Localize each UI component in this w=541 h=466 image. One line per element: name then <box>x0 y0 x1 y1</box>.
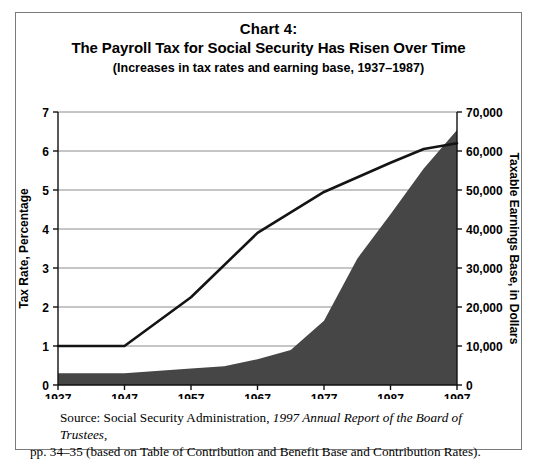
chart-title-number: Chart 4: <box>16 19 521 38</box>
tick-label-left: 0 <box>42 379 49 393</box>
tick-label-x: 1937 <box>45 392 72 399</box>
tick-label-left: 3 <box>42 262 49 276</box>
tick-label-right: 0 <box>466 379 473 393</box>
tick-label-x: 1947 <box>111 392 138 399</box>
chart-subtitle: (Increases in tax rates and earning base… <box>16 58 521 78</box>
chart-titles: Chart 4: The Payroll Tax for Social Secu… <box>16 13 521 78</box>
axis-title-y-left: Tax Rate, Percentage <box>17 188 31 309</box>
tick-label-x: 1987 <box>377 392 404 399</box>
tick-label-right: 70,000 <box>466 106 503 120</box>
tick-label-left: 7 <box>42 106 49 120</box>
source-note: Source: Social Security Administration, … <box>16 409 521 460</box>
tick-label-x: 1957 <box>178 392 205 399</box>
tick-label-left: 4 <box>42 223 49 237</box>
tick-label-left: 6 <box>42 145 49 159</box>
chart-title-main: The Payroll Tax for Social Security Has … <box>16 38 521 58</box>
tick-label-x: 1967 <box>244 392 271 399</box>
source-prefix: Source: Social Security Administration, <box>60 410 273 425</box>
source-line-2: pp. 34–35 (based on Table of Contributio… <box>30 443 507 460</box>
chart-svg: 01234567010,00020,00030,00040,00050,0006… <box>16 89 521 399</box>
tick-label-right: 40,000 <box>466 223 503 237</box>
tick-label-x: 1997 <box>444 392 471 399</box>
tick-label-left: 2 <box>42 301 49 315</box>
plot-area: 01234567010,00020,00030,00040,00050,0006… <box>16 89 521 399</box>
tick-label-x: 1977 <box>311 392 338 399</box>
tick-label-right: 60,000 <box>466 145 503 159</box>
tick-label-left: 5 <box>42 184 49 198</box>
tick-label-right: 10,000 <box>466 340 503 354</box>
tick-label-left: 1 <box>42 340 49 354</box>
axis-title-y-right: Taxable Earnings Base, in Dollars <box>507 153 521 345</box>
source-line-1: Source: Social Security Administration, … <box>30 409 507 443</box>
tick-label-right: 20,000 <box>466 301 503 315</box>
tick-label-right: 30,000 <box>466 262 503 276</box>
tick-label-right: 50,000 <box>466 184 503 198</box>
chart-figure: Chart 4: The Payroll Tax for Social Secu… <box>15 12 522 450</box>
